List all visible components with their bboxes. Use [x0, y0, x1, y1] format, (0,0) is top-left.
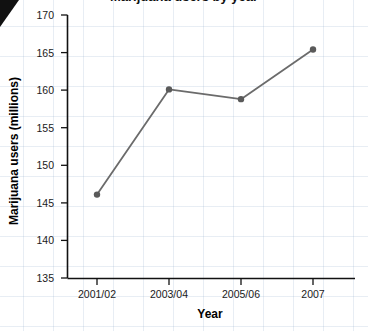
- y-tick-label-165: 165: [22, 47, 54, 59]
- data-point-markers: [94, 46, 316, 197]
- y-tick-label-155: 155: [22, 122, 54, 134]
- x-tick-label-2007: 2007: [278, 288, 348, 300]
- y-tick-label-145: 145: [22, 197, 54, 209]
- x-axis-title: Year: [60, 307, 360, 321]
- x-tick-label-2003-04: 2003/04: [134, 288, 204, 300]
- data-point-2003/04: [166, 86, 172, 92]
- x-tick-label-2001-02: 2001/02: [62, 288, 132, 300]
- x-axis-ticks: [97, 279, 313, 286]
- data-point-2007: [310, 46, 316, 52]
- y-tick-label-140: 140: [22, 234, 54, 246]
- y-tick-label-135: 135: [22, 272, 54, 284]
- data-point-2005/06: [238, 96, 244, 102]
- x-tick-label-2005-06: 2005/06: [206, 288, 276, 300]
- y-axis-title: Marijuana users (millions): [7, 51, 21, 251]
- y-tick-label-170: 170: [22, 9, 54, 21]
- y-tick-label-160: 160: [22, 84, 54, 96]
- line-chart-plot: [0, 0, 368, 331]
- y-tick-label-150: 150: [22, 159, 54, 171]
- y-axis-ticks: [61, 15, 68, 278]
- data-line-series: [97, 50, 313, 195]
- data-point-2001/02: [94, 191, 100, 197]
